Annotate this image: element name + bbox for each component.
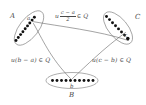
set-label-a: A: [10, 13, 15, 20]
edge-label-ac-suffix: ∈ Q: [77, 13, 89, 19]
edge-label-ac-prefix: u: [55, 13, 59, 19]
dot: [60, 79, 63, 82]
set-label-c: C: [135, 14, 140, 21]
dot: [19, 33, 22, 36]
dot: [78, 79, 81, 82]
set-diagram-figure: A C B a c b u c − a 2 ∈ Q u(b − a) ∈ Q u…: [0, 0, 146, 105]
dot: [111, 21, 114, 24]
dot: [17, 36, 20, 39]
edge-label-ac-denominator: 2: [65, 16, 70, 22]
dot: [83, 79, 86, 82]
edge-label-a-c: u c − a 2 ∈ Q: [55, 10, 88, 22]
dot: [28, 22, 31, 25]
dot: [24, 27, 27, 30]
edge-a-to-b: [34, 24, 71, 79]
edge-group: [33, 22, 129, 79]
set-c-group: [98, 7, 138, 49]
set-label-b: B: [69, 92, 74, 99]
dot: [120, 31, 123, 34]
dot: [56, 79, 59, 82]
dot: [74, 79, 77, 82]
dot: [21, 30, 24, 33]
element-label-b: b: [70, 84, 74, 90]
edge-label-b-c: u(c − b) ∈ Q: [92, 57, 131, 63]
dot: [31, 19, 34, 22]
dot: [15, 39, 18, 42]
dot: [33, 16, 36, 19]
edge-label-a-b: u(b − a) ∈ Q: [11, 57, 50, 63]
element-label-a: a: [27, 16, 30, 22]
element-label-c: c: [124, 33, 127, 39]
dot: [87, 79, 90, 82]
dot: [26, 24, 29, 27]
dot: [65, 79, 68, 82]
edge-label-ac-fraction: c − a 2: [60, 10, 76, 22]
dot: [108, 18, 111, 21]
dot: [117, 27, 120, 30]
dot: [105, 15, 108, 18]
dot: [51, 79, 54, 82]
dot: [114, 24, 117, 27]
dot: [69, 79, 72, 82]
set-b-dots: [51, 79, 94, 82]
dot: [92, 79, 95, 82]
